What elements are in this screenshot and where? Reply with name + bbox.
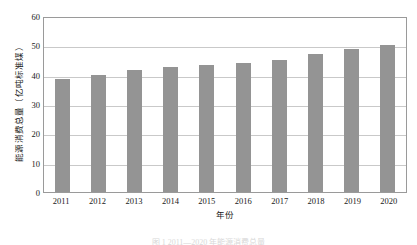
bar-slot: [189, 18, 225, 192]
bar-slot: [153, 18, 189, 192]
y-axis-tick-label: 50: [14, 41, 40, 51]
x-axis-tick-labels: 2011201220132014201520162017201820192020: [43, 196, 407, 206]
bar-2015: [199, 65, 214, 192]
bar-2011: [55, 79, 70, 192]
x-axis-tick-label: 2019: [334, 196, 370, 206]
bar-slot: [225, 18, 261, 192]
bar-slot: [334, 18, 370, 192]
bar-2012: [91, 75, 106, 192]
plot-area: [43, 17, 407, 193]
bar-2017: [272, 60, 287, 192]
figure-caption: 图 1 2011—2020 年能源消费总量: [0, 236, 417, 245]
bar-slot: [370, 18, 406, 192]
bar-slot: [80, 18, 116, 192]
bar-slot: [261, 18, 297, 192]
x-axis-tick-label: 2013: [116, 196, 152, 206]
x-axis-tick-label: 2015: [189, 196, 225, 206]
bar-2019: [344, 49, 359, 192]
y-axis-tick-labels: 0102030405060: [14, 0, 40, 245]
bar-2014: [163, 67, 178, 192]
bar-2018: [308, 54, 323, 192]
x-axis-title: 年份: [43, 208, 407, 220]
bar-2020: [380, 45, 395, 192]
bar-slot: [297, 18, 333, 192]
x-axis-tick-label: 2018: [298, 196, 334, 206]
x-axis-tick-label: 2020: [371, 196, 407, 206]
x-axis-tick-label: 2011: [43, 196, 79, 206]
x-axis-tick-label: 2012: [79, 196, 115, 206]
y-axis-tick-label: 60: [14, 12, 40, 22]
bar-slot: [116, 18, 152, 192]
y-axis-tick-label: 10: [14, 159, 40, 169]
y-axis-tick-label: 0: [14, 188, 40, 198]
bar-series: [44, 18, 406, 192]
x-axis-tick-label: 2017: [261, 196, 297, 206]
energy-consumption-bar-chart: 能源消费总量（亿吨标准煤） 0102030405060 201120122013…: [0, 0, 417, 245]
y-axis-tick-label: 40: [14, 71, 40, 81]
bar-2016: [236, 63, 251, 192]
bar-slot: [44, 18, 80, 192]
bar-2013: [127, 70, 142, 192]
x-axis-tick-label: 2014: [152, 196, 188, 206]
x-axis-tick-label: 2016: [225, 196, 261, 206]
y-axis-tick-label: 30: [14, 100, 40, 110]
y-axis-tick-label: 20: [14, 129, 40, 139]
